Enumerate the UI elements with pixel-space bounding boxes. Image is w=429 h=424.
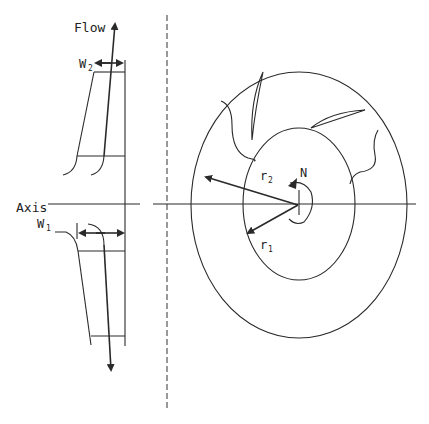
blade-2 <box>311 110 365 128</box>
impeller-diagram: Flow Axis W 2 W 1 <box>0 0 429 424</box>
svg-text:W: W <box>37 217 45 231</box>
svg-text:W: W <box>79 57 87 71</box>
outlet-shroud-line <box>77 72 94 156</box>
svg-text:r: r <box>260 169 267 183</box>
upper-streamline-curve <box>91 156 104 175</box>
r1-label: r 1 <box>260 238 273 254</box>
svg-text:1: 1 <box>268 245 273 254</box>
inlet-shroud-curve <box>55 232 78 251</box>
w2-label: W 2 <box>79 57 93 73</box>
flow-arrow-down <box>104 245 111 370</box>
rotation-speed-label: N <box>300 166 307 180</box>
meridional-section: Flow Axis W 2 W 1 <box>16 20 140 370</box>
inlet-streamline-curve <box>88 224 104 245</box>
r1-radius-arrow <box>248 205 298 233</box>
svg-text:1: 1 <box>46 224 51 233</box>
r2-label: r 2 <box>260 169 273 185</box>
flow-arrow-up <box>104 24 115 156</box>
upper-shroud-curve <box>63 156 77 175</box>
rotation-arrowhead-icon <box>288 178 297 189</box>
section-cut-right <box>350 130 378 184</box>
r2-radius-arrow <box>206 177 298 205</box>
w1-label: W 1 <box>37 217 51 233</box>
svg-text:r: r <box>260 238 267 252</box>
front-view: r 2 r 1 N <box>153 72 416 338</box>
axis-label: Axis <box>16 200 47 215</box>
section-cut-left <box>221 101 255 161</box>
svg-text:2: 2 <box>88 64 93 73</box>
svg-text:2: 2 <box>268 176 273 185</box>
lower-shroud-line <box>78 251 91 345</box>
flow-label: Flow <box>74 20 105 35</box>
